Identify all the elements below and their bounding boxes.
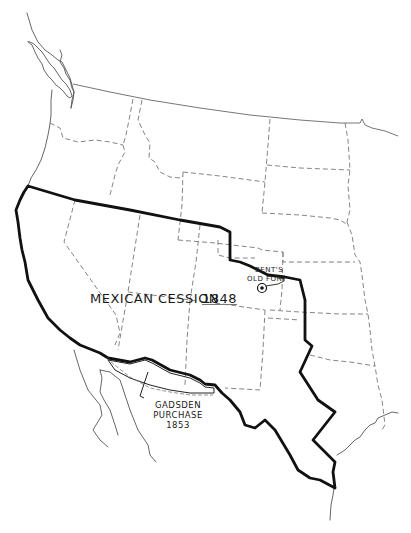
state-line-ks-mo [362, 275, 370, 330]
state-line-id-mt [138, 100, 183, 178]
state-line-sd-ne [262, 213, 348, 225]
state-line-az-nm [185, 300, 190, 385]
washington-oregon-coast [28, 90, 52, 186]
state-line-dakota-mn [345, 123, 350, 222]
state-line-ok-panhandle [268, 318, 300, 320]
gulf-coast [337, 412, 398, 455]
gulf-of-california-coast [100, 370, 118, 435]
gadsden-label-line2: PURCHASE [138, 410, 218, 420]
puget-sound [60, 50, 74, 108]
state-line-nm-tx [225, 310, 265, 390]
gadsden-label-line3: 1853 [138, 420, 218, 430]
mexico-gulf-coast [330, 488, 334, 520]
state-line-or-id [110, 145, 125, 195]
vancouver-island [28, 42, 72, 98]
state-line-ks-ok [270, 310, 368, 314]
state-line-ok-ar [370, 330, 385, 425]
mexican-cession-boundary [16, 186, 335, 488]
state-line-wa-or [50, 123, 123, 145]
state-line-ne-iowa [347, 222, 362, 275]
state-line-id-wy [178, 172, 183, 240]
canada-us-border [73, 84, 398, 136]
pacific-northwest-coast [27, 13, 74, 108]
state-line-ut-co [190, 225, 200, 300]
state-line-mt-nd [262, 119, 270, 213]
state-line-ok-tx [310, 355, 375, 366]
gadsden-purchase-label: GADSDEN PURCHASE 1853 [138, 400, 218, 430]
bents-fort-label-line1: BENT'S [255, 266, 283, 274]
state-line-mt-wy [183, 172, 265, 182]
state-line-wa-id [123, 99, 133, 145]
map-canvas [0, 0, 411, 533]
state-line-co-nm [218, 240, 255, 258]
bents-fort-label-line2: OLD FORT [247, 275, 286, 283]
state-line-nv-ut [118, 215, 140, 350]
mexican-cession-label: MEXICAN CESSION [90, 291, 219, 306]
mexican-cession-year: 1848 [202, 291, 237, 306]
gadsden-label-line1: GADSDEN [138, 400, 218, 410]
state-line-tx-la [382, 425, 385, 430]
state-line-ca-nv [64, 200, 120, 345]
gadsden-pointer [140, 372, 148, 398]
state-line-nd-sd [267, 165, 350, 170]
state-line-ne-ks [283, 252, 355, 262]
